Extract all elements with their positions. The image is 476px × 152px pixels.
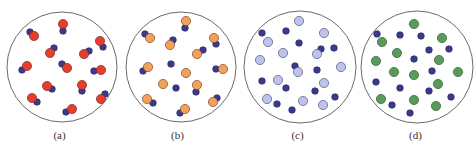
small-particle xyxy=(259,30,266,37)
panel-caption: (b) xyxy=(118,129,237,141)
small-particle xyxy=(407,110,414,117)
panel-b: (b) xyxy=(118,0,237,152)
panel-caption: (a) xyxy=(0,129,119,141)
large-particle xyxy=(142,94,151,103)
large-particle xyxy=(143,62,152,71)
large-particle xyxy=(278,48,287,57)
large-particle xyxy=(62,63,71,72)
small-particle xyxy=(312,88,319,95)
large-particle xyxy=(96,94,105,103)
large-particle xyxy=(293,67,302,76)
large-particle xyxy=(434,55,443,64)
large-particle xyxy=(376,94,385,103)
small-particle xyxy=(397,85,404,92)
small-particle xyxy=(389,102,396,109)
large-particle xyxy=(96,65,105,74)
panel-a: (a) xyxy=(0,0,119,152)
large-particle xyxy=(42,81,51,90)
large-particle xyxy=(209,33,218,42)
large-particle xyxy=(58,19,67,28)
panel-caption: (c) xyxy=(238,129,357,141)
large-particle xyxy=(319,78,328,87)
large-particle xyxy=(67,104,76,113)
small-particle xyxy=(283,85,290,92)
particle-container-a xyxy=(0,0,119,130)
panel-d: (d) xyxy=(356,0,475,152)
small-particle xyxy=(274,101,281,108)
large-particle xyxy=(392,48,401,57)
small-particle xyxy=(374,31,381,38)
small-particle xyxy=(314,67,321,74)
small-particle xyxy=(332,94,339,101)
large-particle xyxy=(45,48,54,57)
large-particle xyxy=(77,80,86,89)
large-particle xyxy=(208,97,217,106)
large-particle xyxy=(409,70,418,79)
large-particle xyxy=(319,28,328,37)
large-particle xyxy=(192,49,201,58)
small-particle xyxy=(426,47,433,54)
large-particle xyxy=(95,36,104,45)
large-particle xyxy=(255,55,264,64)
large-particle xyxy=(165,40,174,49)
large-particle xyxy=(433,79,442,88)
particle-container-b xyxy=(118,0,237,130)
large-particle xyxy=(218,64,227,73)
small-particle xyxy=(259,78,266,85)
small-particle xyxy=(173,85,180,92)
small-particle xyxy=(418,33,425,40)
large-particle xyxy=(298,96,307,105)
small-particle xyxy=(411,56,418,63)
small-particle xyxy=(289,107,296,114)
large-particle xyxy=(158,79,167,88)
large-particle xyxy=(29,31,38,40)
small-particle xyxy=(331,45,338,52)
small-particle xyxy=(168,61,175,68)
large-particle xyxy=(27,93,36,102)
large-particle xyxy=(181,68,190,77)
large-particle xyxy=(409,95,418,104)
large-particle xyxy=(389,67,398,76)
large-particle xyxy=(145,33,154,42)
large-particle xyxy=(262,94,271,103)
small-particle xyxy=(448,94,455,101)
large-particle xyxy=(409,19,418,28)
large-particle xyxy=(22,61,31,70)
large-particle xyxy=(180,104,189,113)
small-particle xyxy=(446,46,453,53)
small-particle xyxy=(397,32,404,39)
small-particle xyxy=(283,28,290,35)
small-particle xyxy=(429,68,436,75)
large-particle xyxy=(312,49,321,58)
particle-container-d xyxy=(356,0,475,130)
large-particle xyxy=(431,101,440,110)
panel-c: (c) xyxy=(238,0,357,152)
large-particle xyxy=(273,75,282,84)
particle-container-c xyxy=(238,0,357,130)
large-particle xyxy=(181,16,190,25)
small-particle xyxy=(296,40,303,47)
large-particle xyxy=(263,37,272,46)
large-particle xyxy=(318,100,327,109)
large-particle xyxy=(79,49,88,58)
large-particle xyxy=(294,16,303,25)
large-particle xyxy=(192,80,201,89)
panel-caption: (d) xyxy=(356,129,475,141)
small-particle xyxy=(373,79,380,86)
large-particle xyxy=(371,56,380,65)
large-particle xyxy=(336,62,345,71)
large-particle xyxy=(453,67,462,76)
large-particle xyxy=(437,33,446,42)
small-particle xyxy=(426,88,433,95)
large-particle xyxy=(377,37,386,46)
